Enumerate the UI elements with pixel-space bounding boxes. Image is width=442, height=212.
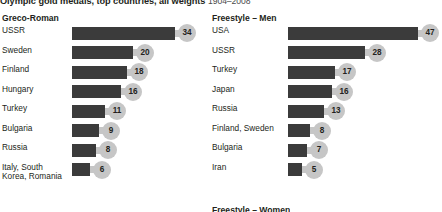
bar-row-label: Finland, Sweden xyxy=(212,124,286,134)
bar-value-badge: 6 xyxy=(93,161,111,179)
bar-row: Bulgaria7 xyxy=(212,143,442,163)
bar-row: Iran5 xyxy=(212,163,442,183)
bar-value-badge: 8 xyxy=(313,122,331,140)
bar-value-badge: 20 xyxy=(136,44,154,62)
bar-value-badge: 13 xyxy=(327,102,345,120)
bar xyxy=(288,66,335,79)
bar xyxy=(72,66,127,79)
bar-row-label: Bulgaria xyxy=(2,124,70,134)
bar-value-badge: 18 xyxy=(130,63,148,81)
bar-row: Hungary16 xyxy=(2,85,210,105)
bar-row-label: Turkey xyxy=(2,104,70,114)
bar-row-label: Italy, South Korea, Romania xyxy=(2,163,70,182)
bar xyxy=(288,85,332,98)
bar-row: Turkey17 xyxy=(212,65,442,85)
bar-row: USA47 xyxy=(212,26,442,46)
bar-row: Russia8 xyxy=(2,143,210,163)
chart-panel-greco-roman: Greco-Roman USSR34Sweden20Finland18Hunga… xyxy=(2,12,210,26)
bar-row-label: USA xyxy=(212,26,286,36)
page-title-years: 1904–2008 xyxy=(208,0,251,6)
bar xyxy=(72,27,175,40)
bar xyxy=(72,144,96,157)
bar-value-badge: 17 xyxy=(338,63,356,81)
bar xyxy=(72,124,99,137)
bar-value-badge: 16 xyxy=(335,83,353,101)
bar-row-label: Finland xyxy=(2,65,70,75)
bar-row-label: USSR xyxy=(2,26,70,36)
chart-panel-freestyle-men: Freestyle – Men USA47USSR28Turkey17Japan… xyxy=(212,12,442,26)
bar xyxy=(72,46,133,59)
bar xyxy=(288,163,302,176)
bar-row-label: USSR xyxy=(212,46,286,56)
bar xyxy=(72,163,90,176)
bar xyxy=(72,85,121,98)
page-title-text: Olympic gold medals, top countries, all … xyxy=(0,0,205,6)
bar-row: Italy, South Korea, Romania6 xyxy=(2,163,210,183)
bar xyxy=(288,46,365,59)
bar-row-label: Japan xyxy=(212,85,286,95)
bar-row: Finland, Sweden8 xyxy=(212,124,442,144)
bar-row-label: Turkey xyxy=(212,65,286,75)
bar-row-label: Hungary xyxy=(2,85,70,95)
panel-heading: Freestyle – Men xyxy=(212,12,442,26)
bar-value-badge: 9 xyxy=(102,122,120,140)
panel-heading: Greco-Roman xyxy=(2,12,210,26)
bar-value-badge: 47 xyxy=(421,24,439,42)
bar-row: Japan16 xyxy=(212,85,442,105)
bar-row: Finland18 xyxy=(2,65,210,85)
bar-value-badge: 5 xyxy=(305,161,323,179)
bar-value-badge: 16 xyxy=(124,83,142,101)
bar-row: Russia13 xyxy=(212,104,442,124)
bar-row-label: Russia xyxy=(2,143,70,153)
bar-value-badge: 34 xyxy=(178,24,196,42)
bar-row: USSR28 xyxy=(212,46,442,66)
bar-value-badge: 11 xyxy=(108,102,126,120)
bar xyxy=(72,105,105,118)
bar xyxy=(288,124,310,137)
bar xyxy=(288,27,418,40)
bar-row: Turkey11 xyxy=(2,104,210,124)
bar-value-badge: 7 xyxy=(310,141,328,159)
bar-value-badge: 8 xyxy=(99,141,117,159)
bar-row-label: Russia xyxy=(212,104,286,114)
bar-row: USSR34 xyxy=(2,26,210,46)
bar-row-label: Iran xyxy=(212,163,286,173)
page-title: Olympic gold medals, top countries, all … xyxy=(0,0,442,6)
bar-value-badge: 28 xyxy=(368,44,386,62)
bar xyxy=(288,105,324,118)
bar-row-label: Bulgaria xyxy=(212,143,286,153)
bar-row: Sweden20 xyxy=(2,46,210,66)
bar-row-label: Sweden xyxy=(2,46,70,56)
bottom-panel-heading: Freestyle – Women xyxy=(212,205,290,212)
bar xyxy=(288,144,307,157)
